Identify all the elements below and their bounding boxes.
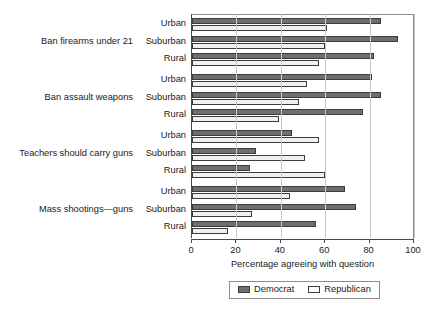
bar-republican xyxy=(192,99,299,105)
locality-label: Urban xyxy=(140,127,186,145)
gridline xyxy=(281,14,282,238)
x-axis-title: Percentage agreeing with question xyxy=(191,259,414,270)
x-axis-tick-label: 60 xyxy=(319,245,329,256)
locality-label-group: UrbanSuburbanRural xyxy=(140,183,189,236)
bar-republican xyxy=(192,81,307,87)
bar-republican xyxy=(192,116,279,122)
locality-label: Urban xyxy=(140,183,186,201)
bar-republican xyxy=(192,172,325,178)
locality-label-group: UrbanSuburbanRural xyxy=(140,127,189,180)
gridline xyxy=(236,14,237,238)
locality-label: Urban xyxy=(140,71,186,89)
bar-democrat xyxy=(192,36,398,42)
bar-democrat xyxy=(192,204,356,210)
x-axis-tick-label: 80 xyxy=(363,245,373,256)
bar-republican xyxy=(192,155,305,161)
locality-label-group: UrbanSuburbanRural xyxy=(140,71,189,124)
locality-label: Suburban xyxy=(140,201,186,219)
bars-layer xyxy=(192,14,414,238)
locality-label: Suburban xyxy=(140,145,186,163)
x-axis-tick xyxy=(235,239,236,243)
bar-democrat xyxy=(192,186,345,192)
bar-republican xyxy=(192,137,319,143)
legend-item-republican: Republican xyxy=(308,284,371,295)
legend-item-democrat: Democrat xyxy=(238,284,294,295)
bar-republican xyxy=(192,43,325,49)
legend-label-democrat: Democrat xyxy=(254,284,294,295)
locality-label: Rural xyxy=(140,162,186,180)
bar-democrat xyxy=(192,165,250,171)
x-axis-tick-label: 20 xyxy=(230,245,240,256)
plot-area xyxy=(191,14,414,238)
question-group: Mass shootings—gunsUrbanSuburbanRural xyxy=(0,183,189,236)
legend-swatch-republican-icon xyxy=(308,286,320,293)
legend-swatch-democrat-icon xyxy=(238,286,250,293)
bar-democrat xyxy=(192,92,381,98)
locality-label: Suburban xyxy=(140,89,186,107)
locality-label: Urban xyxy=(140,15,186,33)
bar-democrat xyxy=(192,109,363,115)
gridline xyxy=(370,14,371,238)
x-axis-tick-label: 40 xyxy=(275,245,285,256)
question-group: Ban assault weaponsUrbanSuburbanRural xyxy=(0,71,189,124)
locality-label: Rural xyxy=(140,50,186,68)
bar-republican xyxy=(192,193,290,199)
bar-republican xyxy=(192,211,252,217)
x-axis-tick xyxy=(369,239,370,243)
locality-label: Suburban xyxy=(140,33,186,51)
bar-chart-figure: Ban firearms under 21UrbanSuburbanRuralB… xyxy=(0,0,442,309)
x-axis-tick-label: 100 xyxy=(405,245,421,256)
x-axis-tick xyxy=(324,239,325,243)
question-group-label: Mass shootings—guns xyxy=(0,204,140,215)
bar-republican xyxy=(192,228,228,234)
locality-label: Rural xyxy=(140,218,186,236)
bar-democrat xyxy=(192,18,381,24)
question-group-label: Ban assault weapons xyxy=(0,92,140,103)
question-group: Ban firearms under 21UrbanSuburbanRural xyxy=(0,15,189,68)
x-axis-tick xyxy=(413,239,414,243)
x-axis-tick xyxy=(191,239,192,243)
locality-label-group: UrbanSuburbanRural xyxy=(140,15,189,68)
question-group-label: Ban firearms under 21 xyxy=(0,36,140,47)
bar-democrat xyxy=(192,130,292,136)
x-axis-tick-label: 0 xyxy=(188,245,193,256)
bar-democrat xyxy=(192,221,316,227)
category-label-column: Ban firearms under 21UrbanSuburbanRuralB… xyxy=(0,14,189,238)
chart-legend: Democrat Republican xyxy=(229,281,380,299)
bar-republican xyxy=(192,25,327,31)
locality-label: Rural xyxy=(140,106,186,124)
gridline xyxy=(414,14,415,238)
question-group-label: Teachers should carry guns xyxy=(0,148,140,159)
bar-democrat xyxy=(192,74,372,80)
x-axis-tick xyxy=(280,239,281,243)
question-group: Teachers should carry gunsUrbanSuburbanR… xyxy=(0,127,189,180)
bar-democrat xyxy=(192,53,374,59)
bar-republican xyxy=(192,60,319,66)
gridline xyxy=(325,14,326,238)
bar-democrat xyxy=(192,148,256,154)
x-axis-line xyxy=(191,239,414,240)
legend-label-republican: Republican xyxy=(324,284,371,295)
